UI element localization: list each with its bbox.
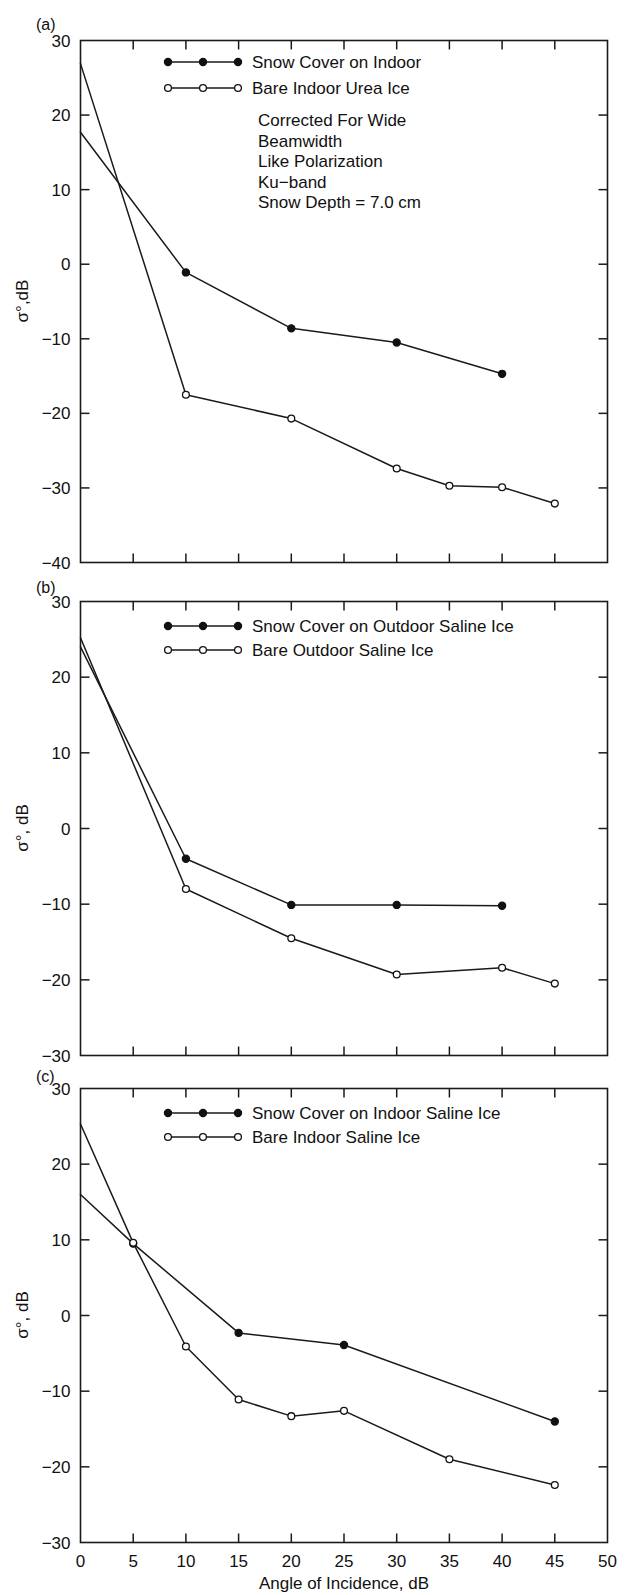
data-point-marker (393, 901, 400, 908)
legend-label: Snow Cover on Indoor (252, 53, 421, 72)
legend-marker-open (200, 647, 207, 654)
panel-a-data (81, 64, 559, 507)
data-point-marker (551, 500, 558, 507)
xtick-label: 40 (493, 1552, 512, 1571)
panel-c-legend: Snow Cover on Indoor Saline IceBare Indo… (164, 1104, 500, 1147)
ytick-label: 20 (52, 1155, 71, 1174)
panel-c-ylabel: σ°, dB (13, 1291, 32, 1339)
legend-label: Snow Cover on Indoor Saline Ice (252, 1104, 501, 1123)
ytick-label: 0 (61, 820, 70, 839)
data-point-marker (183, 1343, 190, 1350)
panel-b: (b) 3020100−10−20−30 σ°, dB Snow Cover o… (0, 578, 639, 1078)
ytick-label: −30 (42, 1047, 71, 1066)
legend-marker-filled (234, 58, 241, 65)
xtick-label: 35 (440, 1552, 459, 1571)
series-line-1 (81, 638, 555, 984)
series-line-0 (81, 1194, 555, 1421)
xtick-label: 15 (229, 1552, 248, 1571)
annotation-line: Corrected For Wide (258, 111, 406, 130)
legend-marker-filled (164, 58, 171, 65)
panel-a-legend: Snow Cover on IndoorBare Indoor Urea Ice (164, 53, 421, 98)
ytick-label: −20 (42, 971, 71, 990)
ytick-label: 0 (61, 1307, 70, 1326)
panel-a-ytick-labels: 3020100−10−20−30−40 (42, 32, 71, 573)
legend-marker-open (165, 85, 172, 92)
panel-b-legend: Snow Cover on Outdoor Saline IceBare Out… (164, 617, 513, 660)
data-point-marker (288, 935, 295, 942)
ytick-label: −30 (42, 1534, 71, 1553)
legend-marker-filled (234, 622, 241, 629)
data-point-marker (182, 269, 189, 276)
data-point-marker (551, 1482, 558, 1489)
panel-a-plot: (a) 3020100−10−20−30−40 σ°,dB Snow Cover… (0, 0, 639, 585)
figure-root: (a) 3020100−10−20−30−40 σ°,dB Snow Cover… (0, 0, 639, 1595)
ytick-label: 30 (52, 32, 71, 51)
ytick-label: 10 (52, 181, 71, 200)
panel-b-ticks (81, 602, 608, 1056)
data-point-marker (235, 1396, 242, 1403)
data-point-marker (393, 339, 400, 346)
panel-b-axes (81, 602, 608, 1056)
data-point-marker (499, 964, 506, 971)
ytick-label: −10 (42, 330, 71, 349)
x-axis-label: Angle of Incidence, dB (259, 1574, 429, 1593)
ytick-label: 10 (52, 744, 71, 763)
data-point-marker (499, 370, 506, 377)
data-point-marker (288, 901, 295, 908)
ytick-label: −40 (42, 554, 71, 573)
panel-c-data (81, 1124, 559, 1488)
ytick-label: −10 (42, 895, 71, 914)
legend-marker-filled (164, 622, 171, 629)
data-point-marker (341, 1407, 348, 1414)
legend-marker-open (165, 1134, 172, 1141)
legend-marker-open (235, 85, 242, 92)
legend-marker-filled (199, 1109, 206, 1116)
data-point-marker (130, 1239, 137, 1246)
panel-b-plot: (b) 3020100−10−20−30 σ°, dB Snow Cover o… (0, 578, 639, 1078)
data-point-marker (183, 391, 190, 398)
ytick-label: 30 (52, 1080, 71, 1099)
panel-c-ytick-labels: 3020100−10−20−30 (42, 1080, 71, 1553)
xtick-label: 25 (335, 1552, 354, 1571)
panel-b-ylabel: σ°, dB (13, 804, 32, 852)
xtick-label: 20 (282, 1552, 301, 1571)
panel-b-ytick-labels: 3020100−10−20−30 (42, 593, 71, 1066)
panel-a-ylabel: σ°,dB (13, 280, 32, 323)
panel-c-xtick-labels: 05101520253035404550 (76, 1552, 617, 1571)
xtick-label: 5 (128, 1552, 137, 1571)
series-line-0 (81, 647, 503, 906)
legend-marker-filled (234, 1109, 241, 1116)
annotation-line: Ku−band (258, 173, 327, 192)
legend-marker-filled (199, 622, 206, 629)
data-point-marker (446, 482, 453, 489)
data-point-marker (235, 1329, 242, 1336)
xtick-label: 0 (76, 1552, 85, 1571)
annotation-line: Snow Depth = 7.0 cm (258, 193, 421, 212)
panel-c-plot: (c) 3020100−10−20−30 0510152025303540455… (0, 1065, 639, 1595)
data-point-marker (446, 1456, 453, 1463)
ytick-label: 20 (52, 106, 71, 125)
data-point-marker (182, 855, 189, 862)
annotation-line: Beamwidth (258, 132, 342, 151)
legend-label: Bare Indoor Urea Ice (252, 79, 410, 98)
legend-marker-open (200, 85, 207, 92)
ytick-label: −10 (42, 1382, 71, 1401)
ytick-label: 30 (52, 593, 71, 612)
panel-a: (a) 3020100−10−20−30−40 σ°,dB Snow Cover… (0, 0, 639, 585)
xtick-label: 10 (176, 1552, 195, 1571)
panel-c-ticks (81, 1089, 608, 1543)
panel-a-tag: (a) (36, 16, 56, 33)
ytick-label: −30 (42, 479, 71, 498)
data-point-marker (551, 1418, 558, 1425)
legend-label: Snow Cover on Outdoor Saline Ice (252, 617, 514, 636)
series-line-1 (81, 1124, 555, 1485)
legend-marker-open (200, 1134, 207, 1141)
legend-marker-filled (199, 58, 206, 65)
xtick-label: 30 (387, 1552, 406, 1571)
legend-label: Bare Indoor Saline Ice (252, 1128, 420, 1147)
xtick-label: 45 (545, 1552, 564, 1571)
data-point-marker (551, 980, 558, 987)
legend-marker-open (165, 647, 172, 654)
ytick-label: 0 (61, 255, 70, 274)
ytick-label: 20 (52, 668, 71, 687)
